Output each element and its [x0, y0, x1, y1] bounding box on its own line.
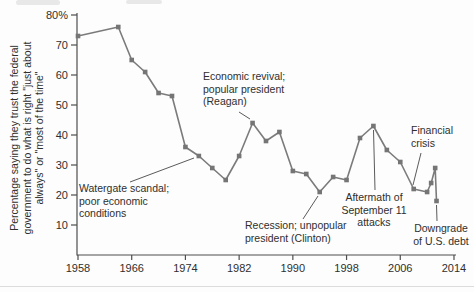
data-point-2004 — [385, 148, 390, 153]
data-point-1978 — [210, 166, 215, 171]
x-tick-label-1990: 1990 — [281, 262, 305, 274]
clinton-label-line1: Recession; unpopular — [245, 219, 347, 231]
reagan-label-line2: popular president — [203, 83, 284, 95]
reagan-label-line1: Economic revival; — [203, 70, 285, 82]
x-tick-label-1974: 1974 — [173, 262, 197, 274]
data-point-1964 — [116, 25, 121, 30]
data-point-1972 — [170, 94, 175, 99]
x-tick-label-2006: 2006 — [388, 262, 412, 274]
data-point-1970 — [156, 91, 161, 96]
data-point-1984 — [250, 121, 255, 126]
data-point-1998 — [344, 178, 349, 183]
chart-canvas: 80%7060504030201019581966197419821990199… — [0, 0, 474, 292]
watergate-label-line1: Watergate scandal; — [79, 182, 169, 194]
trust-in-government-figure: Percentage saying they trust the federal… — [0, 0, 474, 292]
data-point-2011.2 — [433, 166, 438, 171]
financial-label-line1: Financial — [411, 124, 453, 136]
data-point-1974 — [183, 145, 188, 150]
y-tick-label-80: 80% — [46, 9, 68, 21]
clinton-label-line2: president (Clinton) — [245, 232, 331, 244]
financial-label-line2: crisis — [411, 137, 435, 149]
data-point-2008 — [411, 187, 416, 192]
reagan-label-line3: (Reagan) — [203, 95, 247, 107]
y-tick-label-10: 10 — [56, 219, 68, 231]
downgrade-label-line2: of U.S. debt — [413, 235, 469, 247]
x-tick-label-2014: 2014 — [442, 262, 466, 274]
data-point-1988 — [277, 130, 282, 135]
trust-line — [78, 27, 437, 201]
data-point-2000 — [358, 136, 363, 141]
x-tick-label-1958: 1958 — [66, 262, 90, 274]
data-point-2006 — [398, 160, 403, 165]
data-point-1958 — [76, 34, 81, 39]
watergate-leader-line — [130, 158, 194, 182]
x-tick-label-1998: 1998 — [334, 262, 358, 274]
sept11-label-line3: attacks — [357, 216, 390, 228]
watergate-label-line3: conditions — [79, 207, 126, 219]
y-tick-label-70: 70 — [56, 39, 68, 51]
y-tick-label-20: 20 — [56, 189, 68, 201]
data-point-1996 — [331, 175, 336, 180]
data-point-1986 — [264, 139, 269, 144]
data-point-1976 — [197, 154, 202, 159]
data-point-1980 — [223, 178, 228, 183]
watergate-label-line2: poor economic — [79, 195, 148, 207]
y-tick-label-30: 30 — [56, 159, 68, 171]
data-point-1994 — [317, 190, 322, 195]
x-tick-label-1982: 1982 — [227, 262, 251, 274]
data-point-1966 — [129, 58, 134, 63]
clinton-leader-line — [303, 196, 318, 219]
financial-leader-line — [413, 153, 421, 185]
data-point-2010 — [425, 190, 430, 195]
data-point-1992 — [304, 172, 309, 177]
data-point-1968 — [143, 70, 148, 75]
sept11-label-line1: Aftermath of — [345, 191, 402, 203]
y-tick-label-50: 50 — [56, 99, 68, 111]
sept11-leader-line — [374, 130, 376, 190]
data-point-2011.4 — [434, 199, 439, 204]
downgrade-leader-line — [437, 205, 438, 221]
data-point-1982 — [237, 154, 242, 159]
page-artifact-rule — [0, 286, 474, 287]
reagan-leader-line — [239, 112, 250, 119]
data-point-1990 — [291, 169, 296, 174]
x-tick-label-1966: 1966 — [119, 262, 143, 274]
y-tick-label-60: 60 — [56, 69, 68, 81]
data-point-2010.6 — [429, 181, 434, 186]
y-tick-label-40: 40 — [56, 129, 68, 141]
sept11-label-line2: September 11 — [341, 204, 406, 216]
downgrade-label-line1: Downgrade — [414, 222, 468, 234]
data-point-2002 — [371, 124, 376, 129]
